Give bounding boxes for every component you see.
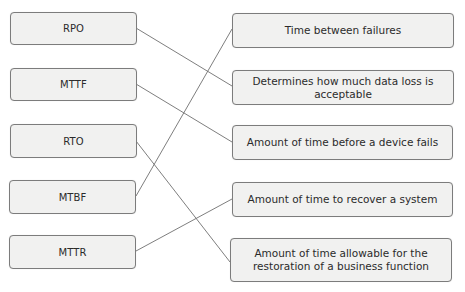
definition-box-restoration-time: Amount of time allowable for the restora… <box>230 238 452 282</box>
term-box-mttr: MTTR <box>9 235 136 269</box>
definition-label: Time between failures <box>279 24 407 37</box>
definition-label: Amount of time allowable for the restora… <box>231 247 451 273</box>
connector-rpo-to-d2 <box>136 28 232 86</box>
definition-box-time-between-failures: Time between failures <box>232 13 454 48</box>
term-label: MTTR <box>52 246 92 259</box>
connector-mtbf-to-d1 <box>136 29 232 196</box>
connector-mttr-to-d4 <box>136 199 232 251</box>
term-label: RTO <box>57 135 90 148</box>
definition-label: Determines how much data loss is accepta… <box>233 75 453 101</box>
matching-diagram: RPO MTTF RTO MTBF MTTR Time between fail… <box>0 0 465 292</box>
term-label: RPO <box>57 22 90 35</box>
term-box-rto: RTO <box>10 124 137 158</box>
definition-box-time-to-recover: Amount of time to recover a system <box>232 182 453 217</box>
term-box-mttf: MTTF <box>10 68 137 101</box>
definition-label: Amount of time to recover a system <box>242 193 444 206</box>
term-label: MTBF <box>53 191 93 204</box>
definition-label: Amount of time before a device fails <box>241 136 444 149</box>
term-label: MTTF <box>54 78 93 91</box>
term-box-mtbf: MTBF <box>9 180 136 214</box>
definition-box-time-before-device-fails: Amount of time before a device fails <box>232 125 453 160</box>
term-box-rpo: RPO <box>10 12 137 45</box>
definition-box-data-loss: Determines how much data loss is accepta… <box>232 70 454 105</box>
